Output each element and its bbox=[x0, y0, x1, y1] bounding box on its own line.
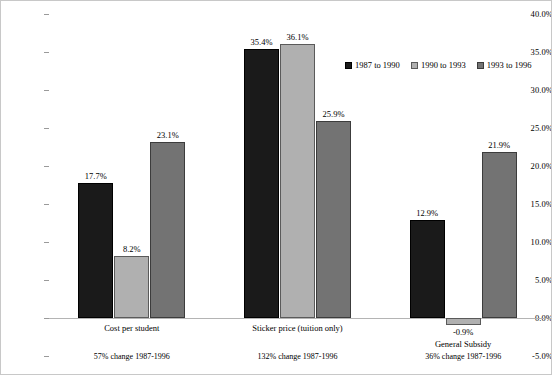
category-label: Sticker price (tuition only) bbox=[252, 323, 342, 333]
y-axis-tick-label: 40.0% bbox=[513, 9, 552, 19]
y-axis-tick-mark bbox=[44, 52, 49, 53]
bar-value-label: 36.1% bbox=[287, 32, 309, 42]
legend-entry-0: 1987 to 1990 bbox=[345, 61, 400, 70]
y-axis-tick-mark bbox=[44, 204, 49, 205]
bar-0-group-1 bbox=[244, 49, 279, 318]
y-axis-tick-mark bbox=[44, 90, 49, 91]
bar-value-label: -0.9% bbox=[453, 327, 474, 337]
y-axis-tick-mark bbox=[44, 242, 49, 243]
category-label: Cost per student bbox=[104, 323, 159, 333]
chart-legend: 1987 to 19901990 to 19931993 to 1996 bbox=[345, 61, 532, 70]
y-axis-tick-mark bbox=[44, 14, 49, 15]
bar-2-group-1 bbox=[316, 121, 351, 318]
category-sublabel: 36% change 1987-1996 bbox=[425, 352, 501, 361]
bar-0-group-2 bbox=[410, 220, 445, 318]
legend-label: 1993 to 1996 bbox=[487, 61, 532, 70]
bar-1-group-0 bbox=[114, 256, 149, 318]
legend-label: 1987 to 1990 bbox=[355, 61, 400, 70]
bar-value-label: 8.2% bbox=[123, 244, 141, 254]
legend-label: 1990 to 1993 bbox=[421, 61, 466, 70]
legend-swatch-icon bbox=[477, 62, 484, 69]
bar-value-label: 23.1% bbox=[157, 130, 179, 140]
category-sublabel: 57% change 1987-1996 bbox=[94, 352, 170, 361]
legend-swatch-icon bbox=[345, 62, 352, 69]
bar-1-group-1 bbox=[280, 44, 315, 318]
y-axis-tick-label: -5.0% bbox=[513, 351, 552, 361]
bar-value-label: 21.9% bbox=[488, 140, 510, 150]
bar-value-label: 17.7% bbox=[85, 171, 107, 181]
bar-0-group-0 bbox=[78, 183, 113, 318]
bar-value-label: 12.9% bbox=[416, 208, 438, 218]
plot-area: 40.0%35.0%30.0%25.0%20.0%15.0%10.0%5.0%0… bbox=[1, 1, 552, 375]
bar-1-group-2 bbox=[446, 318, 481, 325]
y-axis-tick-label: 30.0% bbox=[513, 85, 552, 95]
bar-2-group-0 bbox=[150, 142, 185, 318]
bar-2-group-2 bbox=[482, 152, 517, 318]
y-axis-tick-mark bbox=[44, 128, 49, 129]
y-axis-tick-label: 20.0% bbox=[513, 161, 552, 171]
y-axis-tick-mark bbox=[44, 166, 49, 167]
legend-entry-2: 1993 to 1996 bbox=[477, 61, 532, 70]
y-axis-tick-mark bbox=[44, 356, 49, 357]
legend-swatch-icon bbox=[411, 62, 418, 69]
category-label: General Subsidy bbox=[435, 339, 491, 349]
bar-value-label: 35.4% bbox=[251, 37, 273, 47]
y-axis-tick-label: 15.0% bbox=[513, 199, 552, 209]
bar-value-label: 25.9% bbox=[323, 109, 345, 119]
y-axis-tick-label: 5.0% bbox=[513, 275, 552, 285]
y-axis-tick-label: 25.0% bbox=[513, 123, 552, 133]
y-axis-tick-label: 35.0% bbox=[513, 47, 552, 57]
chart-figure: 40.0%35.0%30.0%25.0%20.0%15.0%10.0%5.0%0… bbox=[0, 0, 552, 375]
y-axis-tick-mark bbox=[44, 280, 49, 281]
y-axis-tick-label: 10.0% bbox=[513, 237, 552, 247]
legend-entry-1: 1990 to 1993 bbox=[411, 61, 466, 70]
category-sublabel: 132% change 1987-1996 bbox=[258, 352, 338, 361]
